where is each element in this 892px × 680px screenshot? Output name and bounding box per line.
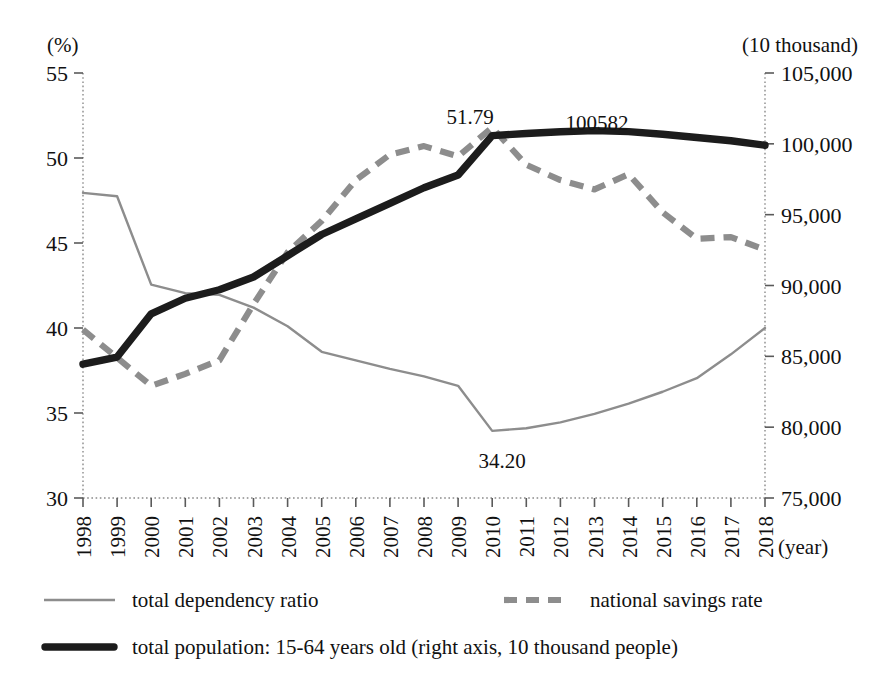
x-axis-tick-labels: 1998199920002001200220032004200520062007… [72, 516, 778, 559]
left-axis-tick-labels: 303540455055 [46, 61, 68, 511]
annotation-population-2010: 100582 [566, 111, 629, 135]
x-tick-label: 2001 [174, 516, 198, 558]
annotation-dependency-min: 34.20 [478, 449, 525, 473]
x-tick-label: 2009 [447, 516, 471, 558]
chart-canvas: (%) (10 thousand) (year) 303540455055 75… [0, 0, 892, 680]
x-tick-label: 2017 [720, 516, 744, 558]
legend-label-total-population: total population: 15-64 years old (right… [132, 635, 678, 659]
series-line-total-population-15-64 [83, 131, 765, 364]
x-tick-label: 2008 [413, 516, 437, 558]
x-tick-label: 2007 [379, 516, 403, 558]
right-tick-label: 75,000 [781, 486, 842, 511]
x-tick-label: 2010 [481, 516, 505, 558]
x-axis-ticks [83, 498, 765, 507]
left-axis-unit-label: (%) [47, 33, 78, 57]
x-tick-label: 2018 [754, 516, 778, 558]
series-line-total-dependency-ratio [83, 193, 765, 431]
x-tick-label: 1998 [72, 516, 96, 558]
x-tick-label: 2003 [243, 516, 267, 558]
right-tick-label: 90,000 [781, 274, 842, 299]
right-axis-tick-labels: 75,00080,00085,00090,00095,000100,000105… [781, 61, 853, 511]
x-tick-label: 2013 [584, 516, 608, 558]
legend-label-total-dependency-ratio: total dependency ratio [132, 588, 319, 612]
left-axis-ticks [74, 73, 83, 498]
right-tick-label: 105,000 [781, 61, 853, 86]
left-tick-label: 50 [46, 146, 68, 171]
left-tick-label: 40 [46, 316, 68, 341]
legend-label-national-savings-rate: national savings rate [590, 588, 763, 612]
x-tick-label: 2015 [652, 516, 676, 558]
right-tick-label: 85,000 [781, 344, 842, 369]
x-tick-label: 1999 [106, 516, 130, 558]
x-tick-label: 2005 [311, 516, 335, 558]
right-tick-label: 80,000 [781, 415, 842, 440]
legend: total dependency ratio national savings … [44, 588, 763, 659]
x-tick-label: 2011 [515, 516, 539, 557]
x-tick-label: 2016 [686, 516, 710, 558]
right-tick-label: 100,000 [781, 132, 853, 157]
left-tick-label: 30 [46, 486, 68, 511]
x-tick-label: 2014 [618, 516, 642, 559]
left-tick-label: 45 [46, 231, 68, 256]
series-line-national-savings-rate [83, 128, 765, 386]
left-tick-label: 55 [46, 61, 68, 86]
right-tick-label: 95,000 [781, 203, 842, 228]
x-tick-label: 2004 [277, 516, 301, 559]
x-tick-label: 2006 [345, 516, 369, 558]
x-tick-label: 2012 [549, 516, 573, 558]
right-axis-unit-label: (10 thousand) [742, 33, 858, 57]
x-tick-label: 2002 [208, 516, 232, 558]
annotation-savings-peak: 51.79 [446, 105, 493, 129]
chart-container: (%) (10 thousand) (year) 303540455055 75… [0, 0, 892, 680]
left-tick-label: 35 [46, 401, 68, 426]
x-axis-unit-label: (year) [778, 535, 828, 559]
right-axis-ticks [765, 73, 774, 498]
x-tick-label: 2000 [140, 516, 164, 558]
